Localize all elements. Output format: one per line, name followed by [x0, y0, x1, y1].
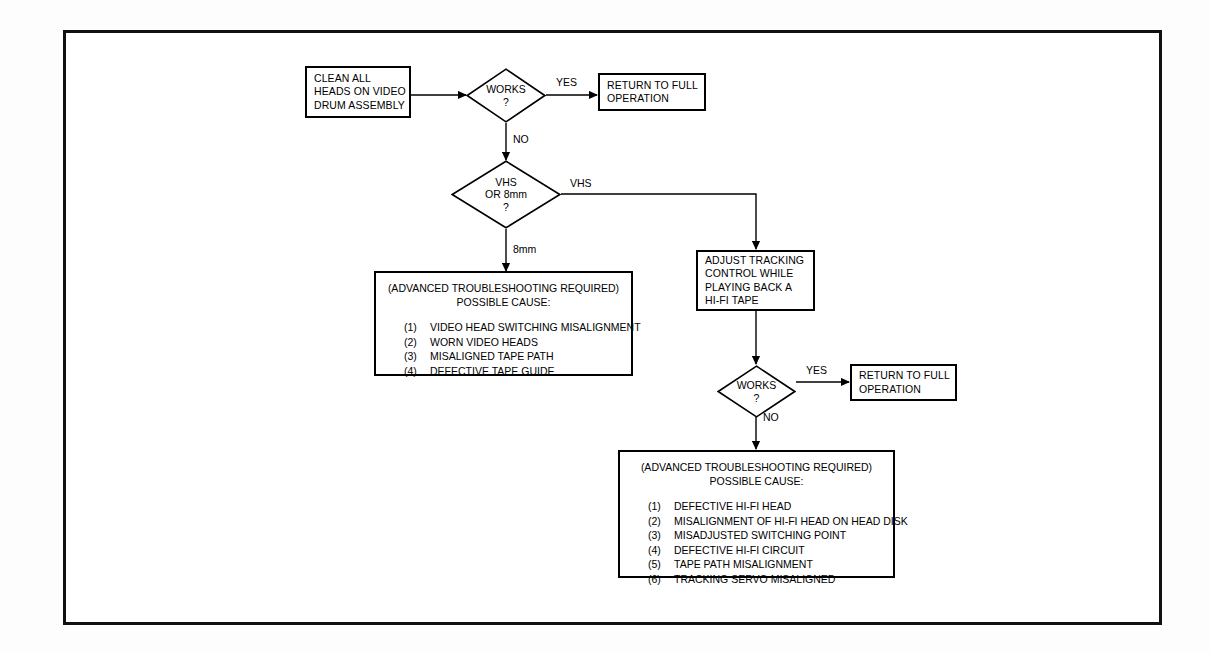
cause-text: TRACKING SERVO MISALIGNED	[674, 572, 893, 587]
node-works-decision-2[interactable]: WORKS ?	[717, 365, 796, 418]
cause-text: MISALIGNMENT OF HI-FI HEAD ON HEAD DISK	[674, 514, 908, 529]
works-1-line-1: WORKS	[486, 83, 526, 96]
node-clean-heads-line-2: HEADS ON VIDEO	[314, 85, 402, 98]
cause-item: (4) DEFECTIVE HI-FI CIRCUIT	[648, 543, 893, 558]
cause-text: DEFECTIVE HI-FI HEAD	[674, 499, 893, 514]
flowchart-canvas: CLEAN ALL HEADS ON VIDEO DRUM ASSEMBLY W…	[0, 0, 1210, 653]
format-line-1: VHS	[495, 176, 517, 189]
cause-item: (6) TRACKING SERVO MISALIGNED	[648, 572, 893, 587]
node-works-decision-2-label: WORKS ?	[717, 365, 796, 418]
works-2-line-1: WORKS	[737, 379, 777, 392]
cause-item: (1) DEFECTIVE HI-FI HEAD	[648, 499, 893, 514]
node-return-full-operation-1[interactable]: RETURN TO FULL OPERATION	[598, 73, 706, 111]
node-clean-heads-line-3: DRUM ASSEMBLY	[314, 99, 402, 112]
adjust-tracking-line-3: PLAYING BACK A	[705, 281, 806, 294]
note-causes-8mm[interactable]: (ADVANCED TROUBLESHOOTING REQUIRED) POSS…	[374, 271, 633, 376]
node-adjust-tracking[interactable]: ADJUST TRACKING CONTROL WHILE PLAYING BA…	[696, 250, 815, 311]
format-line-2: OR 8mm	[485, 188, 527, 201]
cause-text: DEFECTIVE TAPE GUIDE	[430, 364, 631, 379]
note-causes-8mm-list: (1) VIDEO HEAD SWITCHING MISALIGNMENT (2…	[376, 320, 631, 378]
note-causes-hifi-list: (1) DEFECTIVE HI-FI HEAD (2) MISALIGNMEN…	[620, 499, 893, 587]
works-1-line-2: ?	[503, 96, 509, 109]
page-canvas: CLEAN ALL HEADS ON VIDEO DRUM ASSEMBLY W…	[0, 0, 1210, 653]
node-format-decision-label: VHS OR 8mm ?	[451, 160, 561, 229]
cause-item: (3) MISADJUSTED SWITCHING POINT	[648, 528, 893, 543]
edge-label-format-vhs: VHS	[570, 177, 592, 189]
cause-number: (5)	[648, 557, 674, 572]
cause-number: (3)	[404, 349, 430, 364]
edge-label-works1-no: NO	[513, 133, 529, 145]
edge-label-format-8mm: 8mm	[513, 243, 536, 255]
cause-number: (2)	[648, 514, 674, 529]
note-causes-hifi-header-1: (ADVANCED TROUBLESHOOTING REQUIRED)	[620, 461, 893, 475]
note-causes-8mm-header-2: POSSIBLE CAUSE:	[376, 296, 631, 310]
cause-item: (1) VIDEO HEAD SWITCHING MISALIGNMENT	[404, 320, 631, 335]
cause-item: (3) MISALIGNED TAPE PATH	[404, 349, 631, 364]
return-1-line-1: RETURN TO FULL	[607, 79, 697, 92]
format-line-3: ?	[503, 201, 509, 214]
return-1-line-2: OPERATION	[607, 92, 697, 105]
cause-text: DEFECTIVE HI-FI CIRCUIT	[674, 543, 893, 558]
return-2-line-1: RETURN TO FULL	[859, 369, 948, 382]
cause-text: TAPE PATH MISALIGNMENT	[674, 557, 893, 572]
edge-label-works2-yes: YES	[806, 364, 827, 376]
cause-number: (4)	[648, 543, 674, 558]
cause-number: (2)	[404, 335, 430, 350]
cause-number: (1)	[404, 320, 430, 335]
adjust-tracking-line-4: HI-FI TAPE	[705, 294, 806, 307]
cause-item: (2) MISALIGNMENT OF HI-FI HEAD ON HEAD D…	[648, 514, 893, 529]
node-format-decision[interactable]: VHS OR 8mm ?	[451, 160, 561, 229]
node-works-decision-1[interactable]: WORKS ?	[466, 68, 546, 123]
adjust-tracking-line-2: CONTROL WHILE	[705, 267, 806, 280]
cause-number: (1)	[648, 499, 674, 514]
node-works-decision-1-label: WORKS ?	[466, 68, 546, 123]
cause-text: MISADJUSTED SWITCHING POINT	[674, 528, 893, 543]
cause-item: (4) DEFECTIVE TAPE GUIDE	[404, 364, 631, 379]
note-causes-hifi[interactable]: (ADVANCED TROUBLESHOOTING REQUIRED) POSS…	[618, 450, 895, 578]
node-clean-heads-line-1: CLEAN ALL	[314, 72, 402, 85]
cause-item: (2) WORN VIDEO HEADS	[404, 335, 631, 350]
cause-item: (5) TAPE PATH MISALIGNMENT	[648, 557, 893, 572]
cause-text: VIDEO HEAD SWITCHING MISALIGNMENT	[430, 320, 641, 335]
cause-text: MISALIGNED TAPE PATH	[430, 349, 631, 364]
cause-text: WORN VIDEO HEADS	[430, 335, 631, 350]
edge-label-works2-no: NO	[763, 411, 779, 423]
cause-number: (6)	[648, 572, 674, 587]
works-2-line-2: ?	[754, 392, 760, 405]
node-clean-heads[interactable]: CLEAN ALL HEADS ON VIDEO DRUM ASSEMBLY	[305, 66, 411, 118]
note-causes-hifi-header-2: POSSIBLE CAUSE:	[620, 475, 893, 489]
cause-number: (3)	[648, 528, 674, 543]
node-return-full-operation-2[interactable]: RETURN TO FULL OPERATION	[850, 364, 957, 401]
note-causes-8mm-header-1: (ADVANCED TROUBLESHOOTING REQUIRED)	[376, 282, 631, 296]
edge-label-works1-yes: YES	[556, 76, 577, 88]
cause-number: (4)	[404, 364, 430, 379]
return-2-line-2: OPERATION	[859, 383, 948, 396]
adjust-tracking-line-1: ADJUST TRACKING	[705, 254, 806, 267]
